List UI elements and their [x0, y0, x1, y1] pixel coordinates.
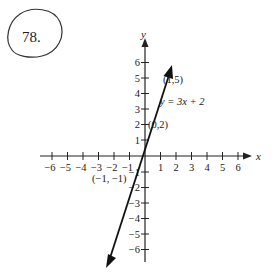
point-label-neg1-neg1: (−1, −1)	[92, 173, 127, 185]
svg-text:3: 3	[189, 162, 194, 173]
svg-text:−2: −2	[106, 162, 117, 173]
svg-text:5: 5	[220, 162, 225, 173]
equation-label: y = 3x + 2	[159, 96, 205, 107]
svg-text:6: 6	[135, 57, 140, 68]
svg-text:4: 4	[135, 88, 141, 99]
svg-text:1: 1	[135, 135, 140, 146]
svg-text:−4: −4	[75, 162, 87, 173]
svg-text:1: 1	[158, 162, 163, 173]
svg-text:−5: −5	[60, 162, 71, 173]
x-axis-label: x	[255, 150, 261, 162]
svg-text:−6: −6	[129, 244, 140, 255]
point-label-1-5: (1,5)	[163, 74, 184, 86]
svg-text:2: 2	[135, 119, 140, 130]
svg-text:−3: −3	[129, 198, 140, 209]
problem-number: 78.	[22, 29, 41, 45]
svg-text:3: 3	[135, 104, 140, 115]
line-arrow-down-icon	[106, 254, 116, 268]
x-tick-labels: −6 −5 −4 −3 −2 −1 1 2 3 4 5 6	[44, 162, 240, 173]
y-axis-label: y	[140, 28, 146, 40]
point-label-0-2: (0,2)	[148, 119, 169, 131]
svg-text:−6: −6	[44, 162, 55, 173]
svg-text:−3: −3	[91, 162, 102, 173]
svg-text:−5: −5	[129, 229, 140, 240]
svg-text:5: 5	[135, 73, 140, 84]
x-axis-arrow-icon	[243, 153, 252, 160]
graph: 78. x y −6 −5 −4 −3 −2 −1 1 2 3 4 5 6	[0, 0, 277, 274]
svg-text:6: 6	[235, 162, 240, 173]
svg-text:−4: −4	[129, 213, 141, 224]
svg-text:4: 4	[204, 162, 210, 173]
svg-text:2: 2	[173, 162, 178, 173]
